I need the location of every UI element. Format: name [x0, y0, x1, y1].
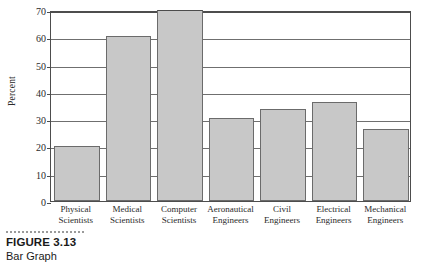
bar	[312, 102, 358, 201]
y-axis-title: Percent	[7, 61, 17, 121]
bars-layer	[51, 12, 410, 201]
figure-caption: FIGURE 3.13 Bar Graph	[6, 231, 306, 263]
bar	[54, 146, 100, 201]
bar	[106, 36, 152, 201]
bar	[363, 129, 409, 201]
figure-container: Percent 010203040506070 PhysicalScientis…	[0, 0, 424, 264]
bar	[209, 118, 255, 201]
category-label-line-2: Engineers	[353, 215, 417, 226]
bar	[157, 10, 203, 201]
y-axis-tick-label: 40	[20, 87, 46, 98]
x-axis-category-label: MechanicalEngineers	[353, 204, 417, 226]
y-axis-tick-label: 10	[20, 169, 46, 180]
y-axis-tick-label: 50	[20, 60, 46, 71]
y-axis-tick-label: 20	[20, 142, 46, 153]
category-label-line-1: Mechanical	[353, 204, 417, 215]
caption-divider	[6, 231, 84, 233]
bar	[260, 109, 306, 201]
y-axis-tick-label: 0	[20, 197, 46, 208]
y-axis-tick-label: 60	[20, 33, 46, 44]
y-axis-tick-label: 70	[20, 6, 46, 17]
y-axis-tick-label: 30	[20, 115, 46, 126]
bar-chart: Percent 010203040506070 PhysicalScientis…	[0, 0, 424, 224]
figure-title: Bar Graph	[6, 250, 306, 263]
plot-area	[50, 11, 411, 202]
y-axis-tick-labels: 010203040506070	[20, 0, 46, 224]
figure-number: FIGURE 3.13	[6, 236, 306, 249]
